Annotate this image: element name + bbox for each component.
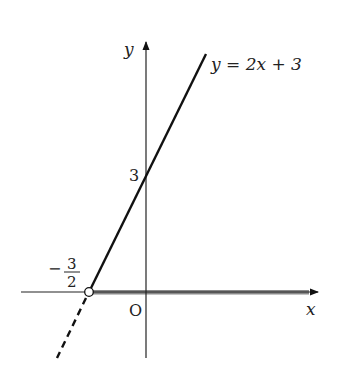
y-axis-label: y [123,39,134,59]
equation-label: y = 2x + 3 [210,54,302,74]
x-intercept-numerator: 3 [67,255,77,273]
open-circle-endpoint [85,288,94,297]
y-intercept-label: 3 [129,166,139,185]
x-axis-label: x [306,299,316,319]
x-intercept-sign: − [48,259,61,278]
x-intercept-denominator: 2 [67,273,77,291]
line-dashed [57,298,86,358]
line-solid [91,54,206,288]
coordinate-graph: y x O y = 2x + 3 3 − 3 2 [0,0,338,382]
origin-label: O [129,301,142,320]
